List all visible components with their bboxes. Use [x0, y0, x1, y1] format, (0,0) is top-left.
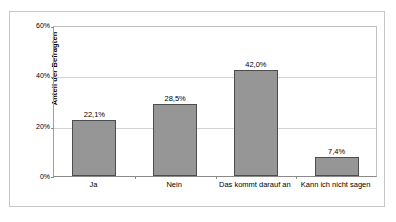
y-tick-label-0: 0% [16, 173, 50, 181]
plot-area: 22,1% 28,5% 42,0% 7,4% [53, 26, 377, 177]
bar-slot-nein: 28,5% [135, 27, 216, 176]
y-tick-label-20: 20% [16, 123, 50, 131]
bar-value-das-kommt-darauf-an: 42,0% [245, 60, 266, 69]
bar-value-nein: 28,5% [164, 94, 185, 103]
bar-kann-ich-nicht-sagen[interactable] [315, 157, 359, 176]
x-tick-label-ja: Ja [53, 180, 134, 190]
x-tick-mark-1 [135, 176, 136, 179]
bar-ja[interactable] [72, 120, 116, 176]
x-tick-mark-3 [296, 176, 297, 179]
bar-slot-das-kommt-darauf-an: 42,0% [216, 27, 297, 176]
y-axis-tick-labels: 0% 20% 40% 60% [12, 26, 50, 177]
x-tick-mark-2 [216, 176, 217, 179]
bar-das-kommt-darauf-an[interactable] [234, 70, 278, 176]
x-tick-label-nein: Nein [134, 180, 215, 190]
bar-value-kann-ich-nicht-sagen: 7,4% [328, 147, 345, 156]
x-tick-label-das-kommt-darauf-an: Das kommt darauf an [215, 180, 296, 190]
y-tick-label-60: 60% [16, 22, 50, 30]
y-tick-mark-0 [51, 177, 54, 178]
bar-value-ja: 22,1% [84, 110, 105, 119]
bar-nein[interactable] [153, 104, 197, 176]
chart-frame: Anteil der Befragten 0% 20% 40% 60% 22,1… [9, 11, 385, 207]
x-axis-tick-labels: Ja Nein Das kommt darauf an Kann ich nic… [53, 180, 378, 204]
bar-slot-ja: 22,1% [54, 27, 135, 176]
bar-slot-kann-ich-nicht-sagen: 7,4% [296, 27, 377, 176]
x-tick-label-kann-ich-nicht-sagen: Kann ich nicht sagen [295, 180, 376, 190]
y-tick-label-40: 40% [16, 72, 50, 80]
